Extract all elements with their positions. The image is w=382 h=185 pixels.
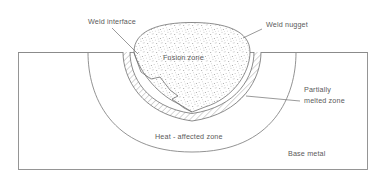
weld-interface-leader xyxy=(112,28,138,54)
label-partially-melted-zone-line1: Partially xyxy=(304,85,331,94)
label-weld-nugget: Weld nugget xyxy=(266,20,308,29)
weld-nugget-leader xyxy=(243,29,262,38)
weld-diagram-canvas: Weld interface Weld nugget Fusion zone P… xyxy=(0,0,382,185)
weld-cross-section-diagram: Weld interface Weld nugget Fusion zone P… xyxy=(0,0,382,185)
label-partially-melted-zone-line2: melted zone xyxy=(304,96,345,105)
label-weld-interface: Weld interface xyxy=(88,17,136,26)
label-heat-affected-zone: Heat - affected zone xyxy=(155,132,223,141)
partially-melted-zone-leader xyxy=(246,96,300,101)
label-fusion-zone: Fusion zone xyxy=(163,53,204,62)
label-base-metal: Base metal xyxy=(288,149,326,158)
